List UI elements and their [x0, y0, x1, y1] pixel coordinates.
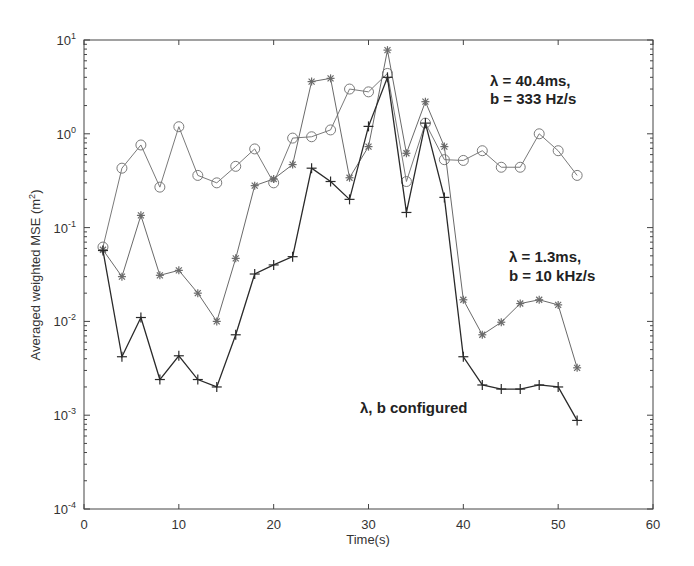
star-marker	[516, 300, 524, 308]
star-marker	[365, 143, 373, 151]
star-marker	[383, 46, 391, 54]
plus-marker	[212, 382, 222, 392]
x-tick-label: 0	[80, 517, 87, 532]
star-marker	[421, 98, 429, 106]
plus-marker	[458, 352, 468, 362]
star-marker	[554, 301, 562, 309]
star-marker	[194, 289, 202, 297]
chart: 010203040506010-410-310-210-1100101 Time…	[0, 0, 694, 566]
x-tick-label: 50	[551, 517, 565, 532]
star-marker	[137, 211, 145, 219]
star-marker	[573, 364, 581, 372]
plus-marker	[401, 207, 411, 217]
y-tick-label: 10-4	[54, 500, 76, 517]
star-marker	[459, 296, 467, 304]
plus-marker	[307, 163, 317, 173]
star-marker	[251, 182, 259, 190]
star-marker	[402, 149, 410, 157]
star-marker	[497, 318, 505, 326]
x-tick-label: 30	[361, 517, 375, 532]
y-axis-label: Averaged weighted MSE (m2)	[27, 190, 43, 361]
svg-text:Averaged weighted MSE (m2): Averaged weighted MSE (m2)	[27, 190, 43, 361]
annotation-circle-series-line2: b = 333 Hz/s	[490, 90, 576, 107]
star-marker	[232, 254, 240, 262]
plus-marker	[136, 313, 146, 323]
plus-marker	[288, 252, 298, 262]
star-marker	[308, 78, 316, 86]
x-tick-label: 40	[456, 517, 470, 532]
x-tick-label: 20	[266, 517, 280, 532]
plus-marker	[572, 415, 582, 425]
plus-marker	[515, 384, 525, 394]
plus-marker	[117, 352, 127, 362]
plus-marker	[250, 269, 260, 279]
y-tick-label: 100	[57, 125, 76, 142]
annotation-star-series-line2: b = 10 kHz/s	[509, 267, 595, 284]
plus-marker	[534, 380, 544, 390]
annotation-circle-series-line1: λ = 40.4ms,	[490, 72, 570, 89]
y-tick-label: 10-2	[54, 312, 76, 329]
star-marker	[289, 161, 297, 169]
y-tick-label: 10-1	[54, 219, 76, 236]
star-marker	[535, 296, 543, 304]
plus-marker	[477, 380, 487, 390]
star-marker	[213, 317, 221, 325]
plus-marker	[269, 260, 279, 270]
x-axis-label: Time(s)	[346, 532, 390, 547]
plus-marker	[553, 382, 563, 392]
plus-marker	[439, 192, 449, 202]
annotation-star-series-line1: λ = 1.3ms,	[509, 248, 581, 265]
plus-marker	[382, 72, 392, 82]
star-marker	[156, 271, 164, 279]
plus-marker	[496, 384, 506, 394]
plus-marker	[231, 330, 241, 340]
star-marker	[346, 174, 354, 182]
x-tick-label: 10	[172, 517, 186, 532]
y-tick-label: 10-3	[54, 406, 76, 423]
star-marker	[175, 266, 183, 274]
star-marker	[327, 74, 335, 82]
annotation-plus-series: λ, b configured	[360, 399, 468, 416]
star-marker	[478, 331, 486, 339]
star-marker	[440, 143, 448, 151]
x-tick-label: 60	[646, 517, 660, 532]
y-tick-label: 101	[57, 31, 76, 48]
star-marker	[270, 175, 278, 183]
star-marker	[118, 273, 126, 281]
